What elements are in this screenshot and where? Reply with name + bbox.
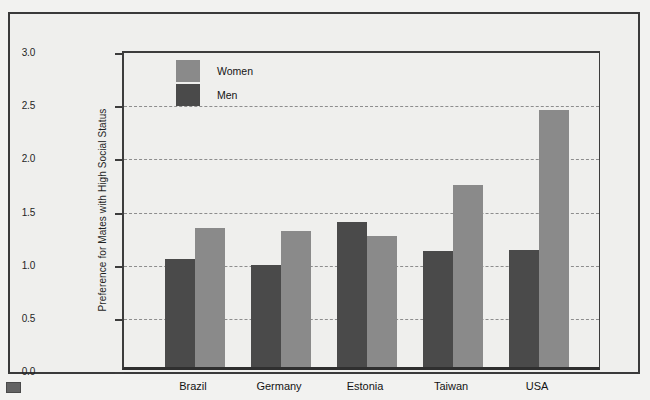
bar-estonia-men	[337, 222, 367, 367]
x-axis-label-usa: USA	[526, 380, 549, 392]
y-axis-tick	[115, 266, 124, 268]
y-axis-tick-label: 0.0	[1, 366, 35, 377]
bar-taiwan-men	[423, 251, 453, 367]
y-axis-tick	[115, 53, 124, 55]
x-axis-label-estonia: Estonia	[347, 380, 384, 392]
bar-usa-men	[509, 250, 539, 367]
x-axis-label-brazil: Brazil	[179, 380, 207, 392]
y-axis-tick-label: 1.0	[1, 260, 35, 271]
y-axis-tick-label: 1.5	[1, 207, 35, 218]
y-axis-tick-label: 3.0	[1, 47, 35, 58]
y-axis-tick-label: 2.5	[1, 100, 35, 111]
bar-estonia-women	[367, 236, 397, 367]
y-axis-tick	[115, 319, 124, 321]
bar-germany-men	[251, 265, 281, 367]
y-axis-tick-label: 0.5	[1, 313, 35, 324]
bar-germany-women	[281, 231, 311, 367]
y-axis-tick	[115, 213, 124, 215]
bar-brazil-women	[195, 228, 225, 367]
y-axis-tick	[115, 159, 124, 161]
y-axis-tick	[115, 106, 124, 108]
bars-group	[124, 53, 599, 367]
y-axis-title: Preference for Mates with High Social St…	[97, 109, 108, 312]
figure-caption-marker	[6, 382, 21, 393]
x-axis-label-germany: Germany	[256, 380, 301, 392]
bar-usa-women	[539, 110, 569, 367]
bar-brazil-men	[165, 259, 195, 367]
y-axis-tick	[115, 372, 124, 374]
y-axis-tick-label: 2.0	[1, 153, 35, 164]
bar-taiwan-women	[453, 185, 483, 367]
x-axis-labels-group: BrazilGermanyEstoniaTaiwanUSA	[122, 376, 600, 396]
x-axis-label-taiwan: Taiwan	[434, 380, 468, 392]
plot-area: Preference for Mates with High Social St…	[122, 51, 600, 370]
figure-frame: Preference for Mates with High Social St…	[8, 12, 640, 374]
